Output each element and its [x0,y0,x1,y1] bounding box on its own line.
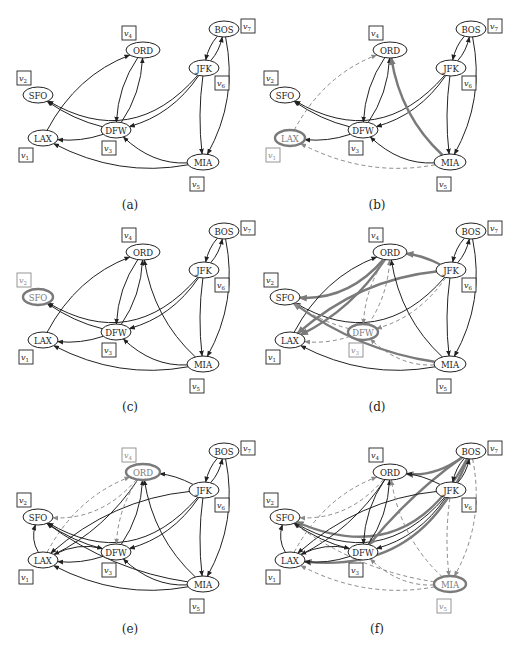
edge-mia-to-dfw [370,559,434,585]
vertex-label-v5: v5 [437,379,451,393]
edge-jfk-to-ord [407,254,441,265]
edge-jfk-to-mia [200,498,203,576]
vertex-label-v2: v2 [264,273,278,287]
edge-jfk-to-ord [160,474,194,485]
node-bos: BOS [456,443,486,459]
node-mia: MIA [187,576,219,592]
airport-graph-figure: SFOv2LAXv1DFWv3ORDv4JFKv6BOSv7MIAv5(a)SF… [0,0,518,651]
node-label: JFK [442,266,459,276]
edge-dfw-to-lax [305,336,351,342]
node-lax: LAX [275,130,305,146]
vertex-label-v4: v4 [122,228,136,242]
panel-f: SFOv2LAXv1DFWv3ORDv4JFKv6BOSv7MIAv5(f) [264,441,502,636]
edge-mia-to-dfw [123,339,187,365]
vertex-label-v1: v1 [19,350,33,364]
node-label: MIA [194,580,213,590]
panel-b: SFOv2LAXv1DFWv3ORDv4JFKv6BOSv7MIAv5(b) [264,19,502,212]
edge-bos-to-jfk [206,36,218,60]
edge-dfw-to-lax [58,556,104,562]
vertex-label-v7: v7 [488,19,502,33]
edge-bos-to-jfk [206,238,218,262]
vertex-label-v3: v3 [102,141,116,155]
node-label: DFW [352,328,374,338]
node-label: SFO [29,293,48,303]
node-label: JFK [442,64,459,74]
panel-caption: (c) [122,400,138,414]
node-dfw: DFW [101,544,131,560]
node-bos: BOS [209,443,239,459]
node-label: MIA [441,580,460,590]
node-label: LAX [281,556,300,566]
edge-jfk-to-bos [211,459,223,483]
node-label: ORD [133,468,153,478]
vertex-label-v5: v5 [190,177,204,191]
node-bos: BOS [209,223,239,239]
node-lax: LAX [28,332,58,348]
node-lax: LAX [275,332,305,348]
edge-jfk-to-dfw [129,498,198,549]
vertex-label-v1: v1 [19,570,33,584]
vertex-label-v5: v5 [190,379,204,393]
panel-c: SFOv2LAXv1DFWv3ORDv4JFKv6BOSv7MIAv5(c) [17,221,255,414]
vertex-label-v4: v4 [369,448,383,462]
vertex-label-v6: v6 [215,498,229,512]
vertex-label-v5: v5 [190,599,204,613]
panel-caption: (e) [122,622,138,636]
panel-e: SFOv2LAXv1DFWv3ORDv4JFKv6BOSv7MIAv5(e) [17,441,255,636]
node-dfw: DFW [101,122,131,138]
edge-jfk-to-mia [200,76,203,154]
node-label: SFO [276,293,295,303]
edge-lax-to-sfo [34,525,39,553]
node-label: BOS [461,227,480,237]
vertex-label-v1: v1 [266,148,280,162]
node-label: BOS [461,25,480,35]
vertex-label-v7: v7 [241,19,255,33]
node-mia: MIA [434,576,466,592]
node-label: BOS [461,447,480,457]
panel-d: SFOv2LAXv1DFWv3ORDv4JFKv6BOSv7MIAv5(d) [264,221,502,414]
node-dfw: DFW [348,324,378,340]
node-ord: ORD [126,464,160,480]
node-sfo: SFO [23,289,53,305]
vertex-label-v3: v3 [349,343,363,357]
edge-bos-to-mia [207,37,229,154]
edge-jfk-to-bos [211,37,223,61]
panels-container: SFOv2LAXv1DFWv3ORDv4JFKv6BOSv7MIAv5(a)SF… [17,19,502,636]
vertex-label-v2: v2 [17,493,31,507]
node-label: LAX [281,336,300,346]
vertex-label-v2: v2 [264,71,278,85]
edge-dfw-to-ord [121,480,142,545]
node-label: ORD [380,468,400,478]
edge-jfk-to-bos [458,239,470,263]
edge-jfk-to-mia [447,76,450,154]
edge-mia-to-lax [54,346,188,371]
edge-jfk-to-sfo [48,277,198,322]
vertex-label-v1: v1 [266,570,280,584]
node-label: JFK [195,486,212,496]
vertex-label-v5: v5 [437,599,451,613]
node-ord: ORD [126,244,160,260]
node-label: SFO [29,513,48,523]
node-label: JFK [195,64,212,74]
node-bos: BOS [456,223,486,239]
node-label: LAX [34,134,53,144]
edge-bos-to-ord [407,457,463,474]
node-sfo: SFO [23,87,53,103]
node-label: MIA [441,158,460,168]
node-ord: ORD [373,244,407,260]
edge-bos-to-mia [207,239,229,356]
node-label: DFW [105,328,127,338]
vertex-label-v6: v6 [462,76,476,90]
edge-bos-to-jfk [453,238,465,262]
node-sfo: SFO [23,509,53,525]
vertex-label-v2: v2 [17,273,31,287]
vertex-label-v4: v4 [369,228,383,242]
edge-bos-to-jfk [206,458,218,482]
vertex-label-v4: v4 [122,448,136,462]
node-label: BOS [214,25,233,35]
panel-a: SFOv2LAXv1DFWv3ORDv4JFKv6BOSv7MIAv5(a) [17,19,255,212]
node-label: JFK [195,266,212,276]
edge-jfk-to-sfo [48,497,198,542]
node-lax: LAX [28,130,58,146]
node-lax: LAX [275,552,305,568]
